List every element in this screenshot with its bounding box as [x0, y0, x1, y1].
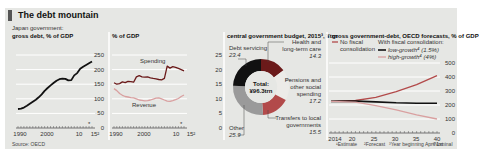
svg-text:250: 250	[94, 52, 105, 58]
svg-text:2000: 2000	[40, 131, 54, 137]
panel4-forecast-chart: 010020030040050020142025303540No fiscalc…	[328, 39, 455, 142]
svg-text:2000: 2000	[137, 131, 151, 137]
svg-text:10: 10	[173, 131, 180, 137]
svg-text:0: 0	[452, 130, 456, 136]
svg-text:high-growth⁴ (4%): high-growth⁴ (4%)	[388, 54, 436, 60]
panel2-spending-revenue-chart: 0510152025199020001015²SpendingRevenue*	[109, 52, 222, 137]
svg-text:15²: 15²	[187, 131, 196, 137]
series-line	[18, 61, 92, 109]
svg-text:23.4: 23.4	[228, 52, 241, 58]
svg-text:*: *	[180, 121, 183, 127]
svg-text:25: 25	[215, 52, 222, 58]
svg-text:Total:: Total:	[253, 81, 269, 87]
svg-text:150: 150	[94, 81, 105, 87]
footnote-forecast: ²Forecast	[364, 141, 385, 147]
svg-text:Transfers to local: Transfers to local	[275, 115, 321, 121]
svg-text:Health and: Health and	[292, 39, 321, 45]
panel3-budget-donut: Total:¥96.3trnDebt servicing23.4Health a…	[228, 39, 322, 138]
svg-text:400: 400	[445, 74, 456, 80]
svg-text:With fiscal consolidation:: With fiscal consolidation:	[378, 39, 444, 45]
series-line	[331, 76, 437, 102]
svg-text:100: 100	[445, 116, 456, 122]
svg-text:Other: Other	[229, 125, 244, 131]
svg-text:low-growth⁴ (1.5%): low-growth⁴ (1.5%)	[388, 47, 439, 53]
svg-text:50: 50	[97, 110, 104, 116]
svg-text:1990: 1990	[109, 131, 123, 137]
svg-text:1990: 1990	[13, 131, 27, 137]
footnote-nominal: ⁴Nominal	[432, 141, 453, 147]
svg-text:17.2: 17.2	[309, 98, 321, 104]
svg-text:other social: other social	[290, 84, 321, 90]
svg-text:200: 200	[445, 102, 456, 108]
footnote-estimate: ¹Estimate	[336, 141, 357, 147]
panel1-debt-chart: 050100150200250199020001015²*	[13, 52, 104, 137]
svg-text:¥96.3trn: ¥96.3trn	[249, 88, 272, 94]
svg-text:Debt servicing: Debt servicing	[229, 45, 267, 51]
svg-text:*: *	[88, 121, 91, 127]
svg-text:0: 0	[101, 125, 105, 131]
svg-text:15.5: 15.5	[309, 129, 321, 135]
series-line	[114, 89, 184, 102]
svg-text:long-term care: long-term care	[282, 46, 321, 52]
svg-text:100: 100	[94, 96, 105, 102]
svg-text:governments: governments	[286, 122, 321, 128]
svg-text:300: 300	[445, 88, 456, 94]
svg-text:No fiscal: No fiscal	[340, 39, 363, 45]
svg-text:Spending: Spending	[140, 58, 165, 64]
series-line	[331, 101, 437, 119]
svg-text:14.3: 14.3	[309, 53, 321, 59]
svg-text:200: 200	[94, 67, 105, 73]
svg-text:10: 10	[215, 96, 222, 102]
svg-text:500: 500	[445, 60, 456, 66]
svg-text:consolidation: consolidation	[340, 46, 375, 52]
svg-text:10: 10	[76, 131, 83, 137]
source-note: Source: OECD	[12, 141, 45, 147]
svg-text:spending: spending	[297, 91, 321, 97]
svg-text:5: 5	[219, 110, 223, 116]
series-line	[114, 66, 184, 84]
svg-text:Revenue: Revenue	[132, 102, 157, 108]
svg-text:20: 20	[215, 67, 222, 73]
svg-text:15²: 15²	[91, 131, 100, 137]
svg-text:15: 15	[215, 81, 222, 87]
svg-text:0: 0	[219, 125, 223, 131]
